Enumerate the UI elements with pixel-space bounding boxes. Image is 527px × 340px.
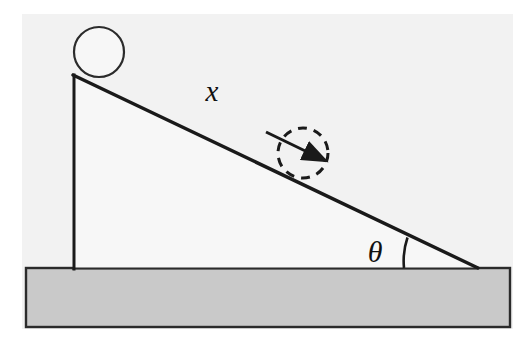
ground-slab — [26, 268, 510, 327]
ball-icon — [74, 27, 124, 77]
physics-diagram-inclined-plane: x θ — [0, 0, 527, 340]
angle-label: θ — [368, 235, 383, 268]
diagram-canvas: x θ — [0, 0, 527, 340]
distance-label: x — [205, 75, 219, 107]
